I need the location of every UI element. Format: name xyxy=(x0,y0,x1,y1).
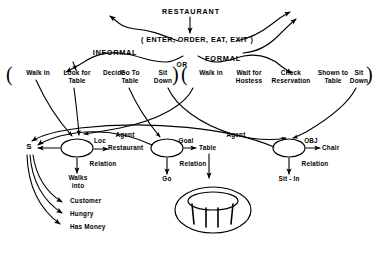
value-go: Go xyxy=(154,176,180,183)
property-hungry: Hungry xyxy=(70,211,126,218)
property-has-money: Has Money xyxy=(70,224,134,231)
action-informal-4-line1: Go To xyxy=(113,70,147,77)
action-informal-1-line1: Walk in xyxy=(19,70,57,77)
line-sitdown-formal-to-node3 xyxy=(293,88,356,138)
action-informal-2-line2: Table xyxy=(58,78,96,85)
arc-label-relation-2: Relation xyxy=(172,161,214,168)
arc-label-obj: OBJ xyxy=(297,138,325,145)
informal-open-paren: ( xyxy=(6,64,13,84)
action-informal-4-line2: Table xyxy=(113,78,147,85)
arc-label-agent-2: Agent xyxy=(216,132,256,139)
subject-node-s: S xyxy=(22,143,36,151)
arc-s-to-has-money xyxy=(27,155,60,224)
value-restaurant: Restaurant xyxy=(108,145,158,152)
line-walkin-to-node1 xyxy=(36,80,72,136)
action-formal-1-line1: Walk in xyxy=(192,70,230,77)
formal-close-paren: ) xyxy=(366,64,373,84)
action-formal-2-line2: Hostess xyxy=(229,78,269,85)
branch-label-informal: INFORMAL xyxy=(84,49,146,57)
script-expansion: ( ENTER, ORDER, EAT, EXIT ) xyxy=(141,36,241,44)
value-chair: Chair xyxy=(322,145,356,152)
formal-open-paren: ( xyxy=(181,64,188,84)
action-formal-3-line2: Reservation xyxy=(266,78,316,85)
line-walkin-formal-to-node1 xyxy=(84,88,193,134)
line-goto-to-node2 xyxy=(129,88,160,137)
table-top-ellipse xyxy=(188,192,238,210)
action-informal-2-line1: Look for xyxy=(58,70,96,77)
arc-s-to-customer xyxy=(33,155,62,202)
value-walks-into-line2: into xyxy=(61,183,95,190)
informal-close-paren: ) xyxy=(172,64,179,84)
action-formal-2-line1: Wait for xyxy=(229,70,269,77)
value-walks-into-line1: Walks xyxy=(61,175,95,182)
value-sit-in: Sit - In xyxy=(268,176,310,183)
branch-label-formal: FORMAL xyxy=(195,55,251,63)
script-title: RESTAURANT xyxy=(161,8,221,16)
value-table: Table xyxy=(199,145,231,152)
arc-label-relation-1: Relation xyxy=(82,161,124,168)
arc-label-relation-3: Relation xyxy=(294,161,336,168)
property-customer: Customer xyxy=(70,198,126,205)
diagram-canvas: RESTAURANT ( ENTER, ORDER, EAT, EXIT ) I… xyxy=(0,0,381,260)
arc-label-goal: Goal xyxy=(172,138,200,145)
action-formal-3-line1: Check xyxy=(266,70,316,77)
